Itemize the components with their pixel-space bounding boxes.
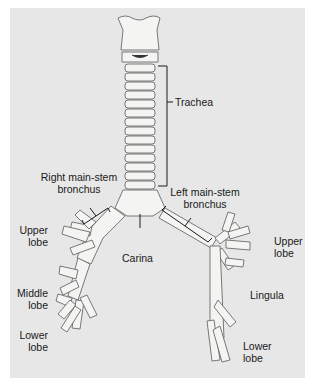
label-line: lobe (274, 247, 303, 259)
label-line: Right main-stem (34, 171, 124, 183)
label-line: lobe (243, 352, 272, 364)
label-right-middle-lobe: Middle lobe (10, 287, 48, 311)
label-line: Upper (274, 235, 303, 247)
trachea-rings (125, 64, 155, 189)
label-right-main-stem-bronchus: Right main-stem bronchus (34, 171, 124, 195)
label-left-upper-lobe: Upper lobe (274, 235, 303, 259)
label-line: Lower (10, 329, 48, 341)
label-line: lobe (12, 236, 48, 248)
label-line: Lower (243, 340, 272, 352)
label-right-lower-lobe: Lower lobe (10, 329, 48, 353)
label-line: bronchus (34, 183, 124, 195)
trachea-bracket (158, 66, 167, 186)
larynx-shape (118, 16, 160, 50)
label-left-main-stem-bronchus: Left main-stem bronchus (160, 186, 250, 210)
label-line: lobe (10, 299, 48, 311)
label-trachea: Trachea (175, 96, 213, 108)
label-line: Upper (12, 224, 48, 236)
label-right-upper-lobe: Upper lobe (12, 224, 48, 248)
label-line: Left main-stem (160, 186, 250, 198)
label-lingula: Lingula (250, 289, 284, 301)
label-left-lower-lobe: Lower lobe (243, 340, 272, 364)
label-carina: Carina (122, 252, 153, 264)
label-line: Middle (10, 287, 48, 299)
label-line: lobe (10, 341, 48, 353)
label-line: bronchus (160, 198, 250, 210)
